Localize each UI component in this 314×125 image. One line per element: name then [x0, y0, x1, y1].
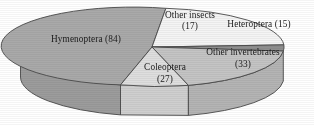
label-hymenoptera: Hymenoptera (84) [51, 34, 121, 45]
label-heteroptera: Heteroptera (15) [227, 19, 290, 30]
label-coleoptera-line1: Coleoptera [144, 62, 186, 72]
side-wall-coleoptera [121, 85, 189, 116]
label-other-invertebrates-line2: (33) [235, 59, 251, 70]
pie-chart-svg: Hymenoptera (84) Other insects (17) Hete… [0, 0, 314, 125]
label-coleoptera-line2: (27) [157, 74, 173, 85]
pie-chart-figure: Hymenoptera (84) Other insects (17) Hete… [0, 0, 314, 125]
label-other-insects-line2: (17) [182, 21, 198, 32]
label-other-invertebrates-line1: Other invertebrates [206, 47, 280, 57]
label-other-insects-line1: Other insects [165, 10, 215, 20]
